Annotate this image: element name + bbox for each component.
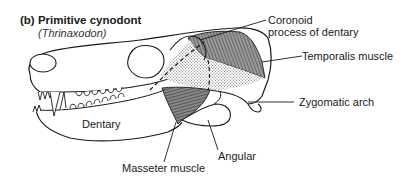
nostril	[30, 54, 56, 72]
label-coronoid-line2: process of dentary	[268, 26, 359, 38]
label-coronoid-line1: Coronoid	[268, 14, 359, 26]
orbit	[128, 46, 164, 78]
figure-subtitle: (Thrinaxodon)	[38, 27, 106, 39]
figure-title: (b) Primitive cynodont	[20, 14, 141, 26]
cynodont-skull-diagram: (b) Primitive cynodont (Thrinaxodon) Cor…	[0, 0, 410, 180]
label-dentary: Dentary	[82, 118, 121, 130]
label-coronoid: Coronoid process of dentary	[268, 14, 359, 38]
label-zygomatic: Zygomatic arch	[299, 96, 374, 108]
panel-label: (b)	[20, 14, 35, 26]
figure-title-text: Primitive cynodont	[38, 14, 142, 26]
label-angular: Angular	[218, 150, 256, 162]
label-masseter: Masseter muscle	[122, 162, 205, 174]
label-temporalis: Temporalis muscle	[302, 50, 393, 62]
